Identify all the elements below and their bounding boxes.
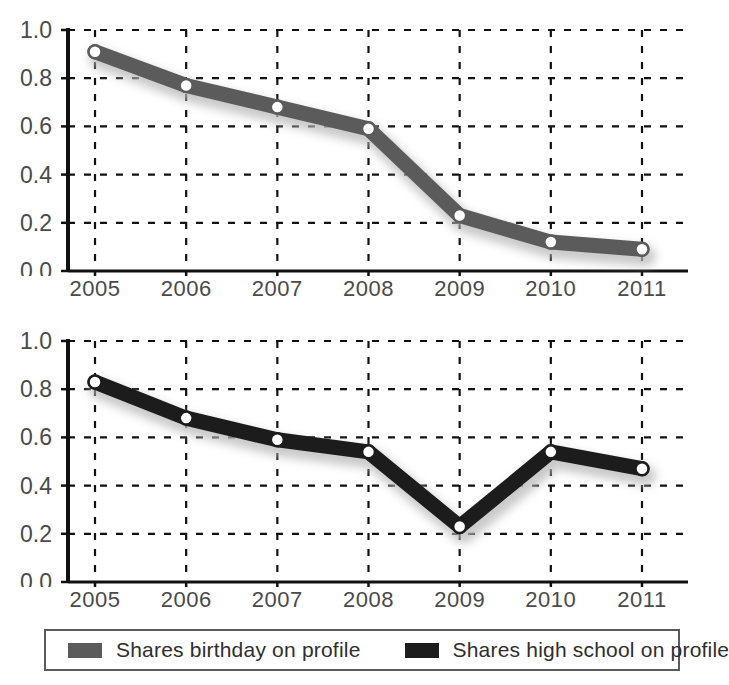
gridlines-horizontal bbox=[68, 341, 688, 534]
y-axis-labels: 0.00.20.40.60.81.0 bbox=[20, 17, 52, 276]
x-axis-tick-label: 2006 bbox=[161, 276, 212, 302]
legend-swatch bbox=[68, 643, 102, 658]
cropped-header-text bbox=[0, 0, 716, 10]
data-point-marker bbox=[636, 243, 649, 256]
y-axis-tick-label: 0.4 bbox=[20, 473, 52, 499]
data-point-marker bbox=[89, 45, 102, 58]
plot-area-bottom: 0.00.20.40.60.81.0 bbox=[0, 325, 716, 587]
x-axis-tick-label: 2007 bbox=[252, 587, 303, 613]
line-chart-bottom: 0.00.20.40.60.81.0 bbox=[0, 325, 716, 587]
x-axis-labels-top: 2005200620072008200920102011 bbox=[0, 276, 716, 310]
data-point-marker bbox=[362, 122, 375, 135]
legend-label: Shares high school on profile bbox=[453, 638, 729, 662]
y-axis-labels: 0.00.20.40.60.81.0 bbox=[20, 328, 52, 587]
x-axis-tick-label: 2009 bbox=[434, 276, 485, 302]
line-chart-top: 0.00.20.40.60.81.0 bbox=[0, 14, 716, 276]
data-point-marker bbox=[453, 209, 466, 222]
data-point-marker bbox=[89, 375, 102, 388]
x-axis-tick-label: 2008 bbox=[343, 276, 394, 302]
chart-panel-top: 0.00.20.40.60.81.0 200520062007200820092… bbox=[0, 14, 716, 276]
data-point-marker bbox=[636, 462, 649, 475]
gridlines-horizontal bbox=[68, 30, 688, 223]
y-axis-tick-label: 0.4 bbox=[20, 162, 52, 188]
x-axis-tick-label: 2007 bbox=[252, 276, 303, 302]
x-axis-tick-label: 2011 bbox=[617, 587, 666, 613]
x-axis-tick-label: 2010 bbox=[525, 276, 576, 302]
x-axis-tick-label: 2005 bbox=[70, 587, 121, 613]
data-point-marker bbox=[180, 79, 193, 92]
y-axis-tick-label: 0.8 bbox=[20, 65, 52, 91]
data-point-marker bbox=[271, 101, 284, 114]
data-point-marker bbox=[362, 445, 375, 458]
x-axis-tick-label: 2008 bbox=[343, 587, 394, 613]
data-point-marker bbox=[544, 236, 557, 249]
y-axis-tick-label: 0.8 bbox=[20, 376, 52, 402]
x-axis-labels-bottom: 2005200620072008200920102011 bbox=[0, 587, 716, 621]
chart-panel-bottom: 0.00.20.40.60.81.0 200520062007200820092… bbox=[0, 325, 716, 587]
legend-item: Shares birthday on profile bbox=[68, 638, 361, 662]
gridlines-vertical bbox=[95, 30, 642, 271]
y-axis-tick-label: 0.0 bbox=[20, 258, 52, 276]
y-axis-tick-label: 0.6 bbox=[20, 424, 52, 450]
data-point-marker bbox=[544, 445, 557, 458]
x-axis-tick-label: 2006 bbox=[161, 587, 212, 613]
data-point-marker bbox=[453, 520, 466, 533]
y-axis-tick-label: 1.0 bbox=[20, 328, 52, 354]
x-axis-tick-label: 2011 bbox=[617, 276, 666, 302]
x-axis-tick-label: 2010 bbox=[525, 587, 576, 613]
legend-swatch bbox=[405, 643, 439, 658]
legend-item: Shares high school on profile bbox=[405, 638, 729, 662]
x-axis-tick-label: 2009 bbox=[434, 587, 485, 613]
y-axis-tick-label: 0.6 bbox=[20, 113, 52, 139]
chart-legend: Shares birthday on profileShares high sc… bbox=[44, 629, 680, 671]
y-axis-tick-label: 1.0 bbox=[20, 17, 52, 43]
data-point-marker bbox=[271, 433, 284, 446]
x-axis-tick-label: 2005 bbox=[70, 276, 121, 302]
y-axis-tick-label: 0.0 bbox=[20, 569, 52, 587]
legend-label: Shares birthday on profile bbox=[116, 638, 361, 662]
data-point-marker bbox=[180, 412, 193, 425]
plot-area-top: 0.00.20.40.60.81.0 bbox=[0, 14, 716, 276]
y-axis-tick-label: 0.2 bbox=[20, 521, 52, 547]
y-axis-tick-label: 0.2 bbox=[20, 210, 52, 236]
